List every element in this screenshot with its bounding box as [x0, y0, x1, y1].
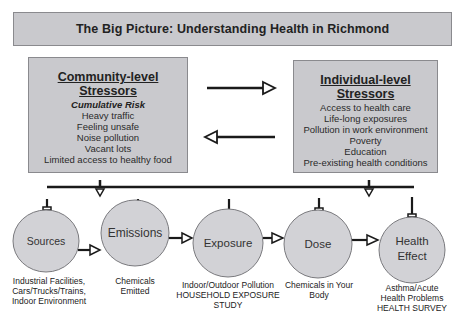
caption-line: Emitted [102, 286, 168, 296]
caption-line: Chemicals in Your [281, 280, 357, 290]
caption-line: Industrial Facilities, [3, 276, 95, 286]
caption-line: Cars/Trucks/Trains, [3, 286, 95, 296]
node-label-emissions: Emissions [101, 223, 169, 243]
caption-line: HOUSEHOLD EXPOSURE [168, 290, 288, 300]
node-label-exposure: Exposure [193, 233, 263, 253]
node-label-dose: Dose [284, 234, 352, 254]
caption-line: Body [281, 290, 357, 300]
node-label-health: Health [379, 233, 445, 249]
caption-sources: Industrial Facilities, Cars/Trucks/Train… [3, 276, 95, 306]
caption-line: Health Problems [372, 293, 452, 303]
caption-line: Chemicals [102, 276, 168, 286]
caption-health-effect: Asthma/Acute Health Problems HEALTH SURV… [372, 283, 452, 313]
caption-line: Asthma/Acute [372, 283, 452, 293]
node-label-effect: Effect [379, 248, 445, 264]
caption-line: HEALTH SURVEY [372, 303, 452, 313]
arrow-right-icon [207, 82, 275, 94]
caption-line: Indoor/Outdoor Pollution [168, 280, 288, 290]
flow-diagram [0, 0, 467, 321]
arrow-left-icon [205, 131, 275, 143]
caption-emissions: Chemicals Emitted [102, 276, 168, 296]
caption-exposure: Indoor/Outdoor Pollution HOUSEHOLD EXPOS… [168, 280, 288, 310]
node-label-sources: Sources [13, 231, 79, 251]
caption-line: Indoor Environment [3, 296, 95, 306]
caption-line: STUDY [168, 300, 288, 310]
caption-dose: Chemicals in Your Body [281, 280, 357, 300]
